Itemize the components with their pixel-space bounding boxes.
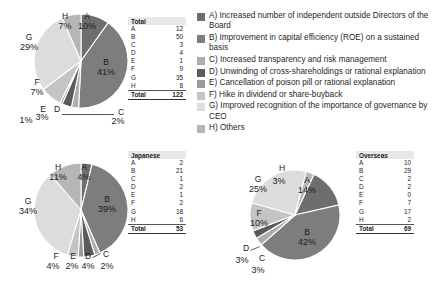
pie-total-label-A: A10%: [76, 12, 98, 31]
legend-swatch-d-icon: [197, 69, 205, 77]
table-total-row: Total53: [128, 224, 186, 233]
table-row: A12: [128, 25, 186, 33]
table-cell-value: 2: [392, 183, 414, 191]
table-total-row: Total122: [128, 90, 186, 99]
table-cell-value: 2: [164, 159, 186, 167]
legend: A) Increased number of independent outsi…: [197, 11, 439, 135]
legend-swatch-c-icon: [197, 57, 205, 65]
table-row: G18: [128, 208, 186, 216]
legend-label-b: B) Improvement in capital efficiency (RO…: [209, 33, 439, 54]
table-total-label: Total: [356, 224, 392, 233]
table-total-value: 53: [164, 224, 186, 233]
table-row: H8: [128, 82, 186, 91]
legend-item-h: H) Others: [197, 123, 439, 133]
table-row: H6: [128, 216, 186, 225]
table-cell-value: 18: [164, 208, 186, 216]
table-overseas-header: Overseas: [356, 151, 414, 159]
pie-japanese-label-B: B39%: [95, 195, 119, 214]
table-cell-value: 10: [392, 159, 414, 167]
pie-japanese-label-H: H11%: [48, 163, 68, 182]
table-cell-key: F: [128, 65, 160, 73]
table-total-label: Total: [128, 224, 164, 233]
pie-japanese-label-C-pct: 2%: [97, 262, 117, 272]
pie-japanese-label-F-pct: 4%: [43, 262, 63, 272]
table-total-value: 122: [160, 90, 186, 99]
pie-japanese-label-G: G34%: [16, 197, 40, 216]
table-cell-value: 50: [160, 33, 186, 41]
legend-label-e: E) Cancellation of poison pill or ration…: [209, 78, 395, 88]
table-cell-key: F: [356, 199, 392, 207]
table-row: A2: [128, 159, 186, 167]
table-cell-key: F: [128, 199, 164, 207]
legend-item-g: G) Improved recognition of the importanc…: [197, 101, 439, 122]
table-cell-key: E: [128, 191, 164, 199]
table-row: B50: [128, 33, 186, 41]
table-cell-key: D: [128, 49, 160, 57]
legend-item-e: E) Cancellation of poison pill or ration…: [197, 78, 439, 88]
data-table-japanese: Japanese A2B21C1D2E1F2G18H6Total53: [128, 151, 186, 234]
legend-label-f: F) Hike in dividend or share-buyback: [209, 90, 342, 100]
pie-overseas-label-F: F10%: [247, 209, 271, 228]
table-total-body: A12B50C3D4E1F9G35H8Total122: [128, 25, 186, 100]
pie-overseas-label-A: A14%: [296, 176, 318, 195]
table-cell-key: B: [356, 167, 392, 175]
figure-root: H7% A10% G29% B41% F7% E 1% D 3% C 2% To…: [0, 0, 444, 286]
table-row: D2: [128, 183, 186, 191]
legend-swatch-f-icon: [197, 92, 205, 100]
table-cell-key: D: [128, 183, 164, 191]
table-row: E1: [128, 191, 186, 199]
table-japanese-body: A2B21C1D2E1F2G18H6Total53: [128, 159, 186, 234]
pie-total-label-G: G29%: [18, 33, 40, 52]
table-row: B29: [356, 167, 414, 175]
table-cell-key: C: [128, 41, 160, 49]
table-cell-value: 12: [160, 25, 186, 33]
table-total-label: Total: [128, 90, 160, 99]
pie-japanese-label-A: A4%: [74, 163, 94, 182]
table-cell-key: B: [128, 33, 160, 41]
legend-swatch-b-icon: [197, 35, 205, 43]
table-cell-key: D: [356, 183, 392, 191]
table-row: C3: [128, 41, 186, 49]
table-cell-value: 1: [164, 191, 186, 199]
table-cell-value: 0: [392, 191, 414, 199]
table-cell-value: 35: [160, 74, 186, 82]
table-cell-value: 1: [160, 57, 186, 65]
table-cell-value: 9: [160, 65, 186, 73]
table-row: C1: [128, 175, 186, 183]
legend-label-d: D) Unwinding of cross-shareholdings or r…: [209, 67, 426, 77]
pie-total-label-B: B41%: [95, 58, 117, 77]
legend-item-b: B) Improvement in capital efficiency (RO…: [197, 33, 439, 54]
data-table-overseas: Overseas A10B29C2D2E0F7G17H2Total69: [356, 151, 414, 234]
table-row: F2: [128, 199, 186, 207]
legend-swatch-h-icon: [197, 125, 205, 133]
table-row: G17: [356, 208, 414, 216]
table-row: C2: [356, 175, 414, 183]
table-cell-key: A: [128, 159, 164, 167]
pie-total-leader-C: [62, 114, 114, 115]
legend-swatch-a-icon: [197, 13, 205, 21]
table-row: D2: [356, 183, 414, 191]
legend-label-a: A) Increased number of independent outsi…: [209, 11, 439, 32]
data-table-total: Total A12B50C3D4E1F9G35H8Total122: [128, 17, 186, 100]
pie-overseas-label-H-letter: H: [275, 164, 289, 174]
table-overseas-body: A10B29C2D2E0F7G17H2Total69: [356, 159, 414, 234]
pie-overseas-label-G: G25%: [246, 175, 270, 194]
pie-overseas-label-D-pct: 3%: [232, 256, 252, 266]
table-cell-key: A: [356, 159, 392, 167]
pie-japanese-label-C-letter: C: [100, 250, 112, 260]
table-cell-key: C: [128, 175, 164, 183]
pie-overseas-label-C-pct: 3%: [248, 266, 268, 276]
pie-japanese-label-D-pct: 4%: [78, 262, 98, 272]
table-cell-key: G: [128, 208, 164, 216]
table-cell-value: 17: [392, 208, 414, 216]
table-cell-value: 8: [160, 82, 186, 91]
table-japanese-header: Japanese: [128, 151, 186, 159]
table-total-value: 69: [392, 224, 414, 233]
table-total-row: Total69: [356, 224, 414, 233]
table-row: A10: [356, 159, 414, 167]
table-cell-key: B: [128, 167, 164, 175]
table-cell-key: C: [356, 175, 392, 183]
legend-label-c: C) Increased transparency and risk manag…: [209, 55, 386, 65]
table-cell-key: G: [356, 208, 392, 216]
table-cell-value: 4: [160, 49, 186, 57]
